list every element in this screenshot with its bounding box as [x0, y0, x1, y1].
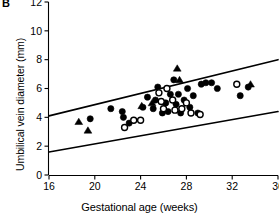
data-point-filled-circle — [237, 93, 243, 99]
data-point-filled-circle — [108, 106, 114, 112]
data-point-filled-circle — [144, 94, 150, 100]
data-point-open-circle — [183, 100, 189, 106]
x-tick-label: 32 — [226, 180, 238, 192]
data-point-open-circle — [179, 106, 185, 112]
data-points — [75, 65, 255, 133]
reference-line — [49, 112, 278, 152]
x-tick-label: 36 — [272, 180, 279, 192]
y-tick-label: 12 — [30, 0, 42, 8]
y-tick-label: 2 — [36, 140, 42, 152]
data-point-open-circle — [131, 117, 137, 123]
data-point-filled-circle — [214, 85, 220, 91]
data-point-filled-circle — [190, 93, 196, 99]
y-tick-label: 4 — [36, 111, 42, 123]
y-tick-label: 0 — [36, 169, 42, 181]
scatter-plot: 024681012 162024283236 — [0, 0, 279, 222]
x-tick-label: 28 — [181, 180, 193, 192]
data-point-open-circle — [138, 117, 144, 123]
x-tick-label: 24 — [135, 180, 147, 192]
data-point-open-circle — [172, 107, 178, 113]
data-point-filled-triangle — [173, 65, 181, 71]
y-tick-label: 10 — [30, 25, 42, 37]
data-point-filled-circle — [203, 80, 209, 86]
data-point-open-circle — [156, 90, 162, 96]
data-point-open-circle — [170, 97, 176, 103]
figure-panel-b: B Umbilical vein diameter (mm) Gestation… — [0, 0, 279, 222]
data-point-filled-circle — [155, 84, 161, 90]
data-point-filled-circle — [208, 80, 214, 86]
y-axis: 024681012 — [30, 0, 48, 181]
x-tick-label: 20 — [89, 180, 101, 192]
y-tick-label: 6 — [36, 82, 42, 94]
data-point-open-circle — [234, 81, 240, 87]
data-point-filled-circle — [120, 114, 126, 120]
data-point-filled-triangle — [84, 127, 92, 133]
data-point-filled-circle — [87, 116, 93, 122]
data-point-filled-circle — [175, 91, 181, 97]
y-tick-label: 8 — [36, 53, 42, 65]
data-point-filled-triangle — [75, 118, 83, 124]
data-point-open-circle — [158, 98, 164, 104]
data-point-open-circle — [122, 124, 128, 130]
data-point-filled-circle — [119, 108, 125, 114]
x-axis: 162024283236 — [43, 176, 279, 193]
data-point-open-circle — [161, 106, 167, 112]
data-point-filled-circle — [150, 106, 156, 112]
data-point-filled-circle — [184, 85, 190, 91]
x-tick-label: 16 — [43, 180, 55, 192]
data-point-open-circle — [188, 110, 194, 116]
data-point-open-circle — [164, 86, 170, 92]
data-point-open-circle — [197, 111, 203, 117]
